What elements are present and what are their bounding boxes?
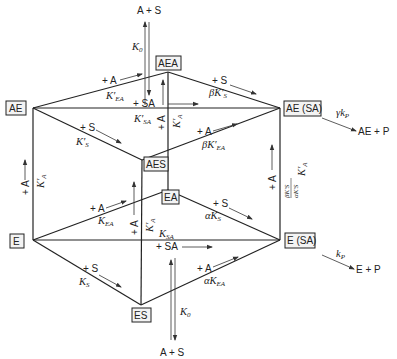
node-label: E (SA) [287,235,316,246]
node-e: E [10,234,24,248]
beta-k-s-prime: βK′S [208,87,228,100]
top-reactants: A + S [137,5,162,16]
factor-denominator: αK′S [292,184,300,198]
node-label: ES [134,310,148,321]
label-add-a: + A [197,126,212,137]
top-k0: K0 [131,41,143,54]
node-e-sa: E (SA) [285,233,316,248]
node-ae-sa: AE (SA) [284,101,322,116]
upper-face-labels: + A K′EA + S βK′S + SA K′SA + S K′S + A … [75,74,256,152]
node-aea: AEA [156,56,181,70]
label-add-s: + S [212,75,228,86]
k-s: KS [78,276,90,289]
node-aes: AES [144,157,168,171]
node-label: AE (SA) [286,103,322,114]
label-add-s: + S [213,198,229,209]
label-add-a: + A [90,203,105,214]
right-factor: βK′S αK′S [283,178,300,199]
arrow-right-icon [99,275,121,287]
edge-aes-es [141,160,142,305]
label-add-a: + A [267,175,278,190]
k-ea-prime: K′EA [105,90,125,103]
label-add-sa: + SA [156,241,178,252]
k-a-prime-left: K′A [35,174,48,189]
k-sa-prime: K′SA [133,113,152,126]
upper-product: AE + P [358,126,390,137]
label-add-a: + A [102,75,117,86]
k-sa: KSA [158,228,175,241]
label-add-a: + A [20,180,31,195]
k-a-prime-front: K′A [144,218,157,233]
beta-k-ea-prime: βK′EA [201,139,226,152]
alpha-k-s: αKS [205,210,222,223]
node-ea: EA [162,190,179,204]
node-label: AEA [158,58,178,69]
arrow-right-icon [96,130,121,143]
k-ea: KEA [97,215,114,228]
node-label: E [13,236,20,247]
lower-face-labels: + A KEA + S αKS + SA KSA + S KS + A αKEA [78,198,252,289]
label-add-a: + A [129,220,140,235]
k-a-prime-right: K′A [296,162,309,177]
node-label: AES [146,159,166,170]
bottom-k0: K0 [179,306,191,319]
arrow-right-icon [120,74,142,80]
kp: kP [336,248,346,261]
label-add-a: + A [197,263,212,274]
label-add-sa: + SA [133,98,155,109]
products: γkP AE + P kP E + P [322,107,390,275]
alpha-k-ea: αKEA [204,275,226,288]
arrow-right-icon [229,208,252,219]
cube-edges [33,72,280,305]
edge-ae-aes [33,108,142,160]
bottom-reactants: A + S [160,347,185,358]
arrow-right-icon [213,124,237,131]
node-label: EA [164,192,178,203]
lower-product: E + P [356,264,381,275]
label-add-s: + S [83,263,99,274]
arrow-right-icon [322,118,356,131]
top-equilibrium: A + S K0 [131,5,162,105]
label-add-s: + S [80,122,96,133]
gamma-kp: γkP [336,107,350,120]
node-ae: AE [6,101,26,115]
label-add-a: + A [156,115,167,130]
k-a-prime-back: K′A [171,114,184,129]
kinetic-scheme-cube: A + S K0 K0 A + S + A K′EA + S βK′S + SA… [0,0,397,359]
k-s-prime: K′S [75,136,89,149]
node-es: ES [132,308,151,322]
node-label: AE [9,103,23,114]
factor-numerator: βK′S [283,184,291,199]
bottom-equilibrium: K0 A + S [160,258,191,358]
